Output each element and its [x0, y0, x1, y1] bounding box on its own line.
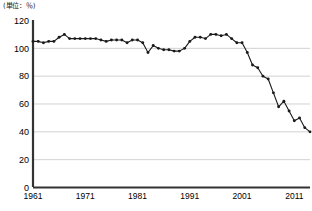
data-point: [204, 37, 207, 40]
data-point: [58, 36, 61, 39]
data-point: [126, 41, 129, 44]
data-point: [214, 33, 217, 36]
data-point: [94, 37, 97, 40]
data-point: [188, 40, 191, 43]
data-point: [99, 39, 102, 42]
gridlines: [33, 21, 310, 160]
data-point: [277, 105, 280, 108]
data-point: [32, 40, 35, 43]
data-point: [52, 40, 55, 43]
y-axis-tick-label: 120: [14, 16, 29, 26]
data-point: [220, 34, 223, 37]
data-point: [68, 37, 71, 40]
data-point: [225, 33, 228, 36]
data-point: [47, 40, 50, 43]
data-point: [173, 50, 176, 53]
x-axis-tick-label: 2011: [285, 191, 304, 201]
data-point: [262, 75, 265, 78]
x-axis-tick-label: 1991: [180, 191, 199, 201]
x-axis-tick-label: 1981: [128, 191, 147, 201]
data-point: [272, 91, 275, 94]
data-point: [282, 100, 285, 103]
data-point: [110, 39, 113, 42]
data-point: [235, 41, 238, 44]
y-axis-tick-label: 60: [19, 99, 29, 109]
data-point: [256, 66, 259, 69]
data-point: [251, 64, 254, 67]
data-series-line: [33, 34, 310, 131]
data-point: [73, 37, 76, 40]
y-axis-tick-label: 20: [19, 155, 29, 165]
data-point: [42, 41, 45, 44]
y-axis-tick-labels: 020406080100120: [14, 16, 29, 193]
x-axis-tick-label: 2001: [233, 191, 252, 201]
y-axis-tick-label: 40: [19, 127, 29, 137]
data-point: [199, 36, 202, 39]
data-point: [298, 116, 301, 119]
data-point: [230, 37, 233, 40]
data-point: [157, 47, 160, 50]
data-point: [131, 39, 134, 42]
data-point: [136, 39, 139, 42]
data-point: [303, 126, 306, 129]
data-point: [115, 39, 118, 42]
y-axis-tick-label: 100: [14, 44, 29, 54]
data-point: [194, 36, 197, 39]
data-point: [105, 40, 108, 43]
chart-container: (単位：％) 020406080100120 19611971198119912…: [0, 0, 312, 211]
data-point: [288, 110, 291, 113]
x-axis-tick-label: 1971: [76, 191, 95, 201]
data-point: [120, 39, 123, 42]
data-point: [84, 37, 87, 40]
data-point: [246, 51, 249, 54]
data-point: [209, 33, 212, 36]
data-point: [89, 37, 92, 40]
data-point: [147, 51, 150, 54]
data-point: [79, 37, 82, 40]
data-point: [167, 48, 170, 51]
data-point: [37, 40, 40, 43]
data-point: [152, 44, 155, 47]
data-point: [293, 119, 296, 122]
data-point: [267, 78, 270, 81]
line-chart-plot: 020406080100120 196119711981199120012011: [0, 0, 312, 211]
x-axis-tick-labels: 196119711981199120012011: [24, 191, 304, 201]
x-axis-tick-label: 1961: [24, 191, 43, 201]
data-point: [63, 33, 66, 36]
data-point: [141, 41, 144, 44]
data-point: [178, 50, 181, 53]
data-point: [241, 41, 244, 44]
data-point: [309, 130, 312, 133]
data-point: [183, 47, 186, 50]
y-axis-tick-label: 80: [19, 71, 29, 81]
data-point: [162, 48, 165, 51]
